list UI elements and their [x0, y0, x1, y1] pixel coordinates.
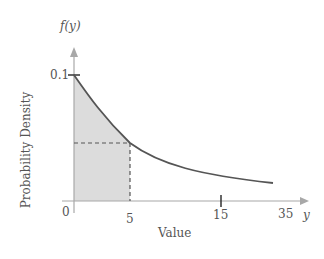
y-axis-label: Probability Density: [19, 92, 33, 209]
x-tick-label-5: 5: [126, 212, 134, 226]
x-axis-arrow-icon: [300, 197, 309, 205]
x-axis-symbol: y: [302, 208, 310, 222]
chart: f(y) 0.1 Probability Density 0 5 15 35 y…: [0, 0, 324, 259]
shaded-area: [74, 75, 130, 201]
y-axis-arrow-icon: [70, 47, 78, 57]
chart-svg: f(y) 0.1 Probability Density 0 5 15 35 y…: [0, 0, 324, 259]
y-axis-top-label: f(y): [59, 19, 81, 33]
x-tick-label-0: 0: [62, 205, 70, 219]
y-tick-label-0.1: 0.1: [50, 68, 69, 82]
x-tick-label-35: 35: [278, 207, 293, 221]
x-tick-label-15: 15: [213, 208, 228, 222]
x-axis-label: Value: [157, 226, 191, 240]
